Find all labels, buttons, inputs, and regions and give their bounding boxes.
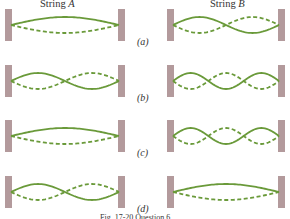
string-b-wave-dashed [173, 192, 279, 200]
string-b-right-wall [278, 176, 285, 208]
standing-wave-diagram [0, 0, 290, 219]
string-a-wave-dashed [11, 136, 119, 144]
string-b-left-wall [167, 65, 174, 97]
string-b-wave-dashed [173, 73, 279, 89]
string-a-right-wall [118, 9, 125, 41]
string-b-right-wall [278, 65, 285, 97]
string-a-wave-solid [11, 128, 119, 136]
string-b-left-wall [167, 176, 174, 208]
string-b-left-wall [167, 120, 174, 152]
string-b-wave-solid [173, 128, 279, 144]
string-b-right-wall [278, 120, 285, 152]
string-a-right-wall [118, 176, 125, 208]
string-b-left-wall [167, 9, 174, 41]
string-a-wave-solid [11, 17, 119, 25]
string-a-wave-solid [11, 73, 119, 89]
string-a-wave-solid [11, 184, 119, 200]
string-a-left-wall [5, 9, 12, 41]
string-a-left-wall [5, 120, 12, 152]
string-a-right-wall [118, 120, 125, 152]
figure-caption: Fig. 17-20 Question 6. [100, 213, 172, 219]
string-b-wave-solid [173, 73, 279, 89]
string-a-left-wall [5, 65, 12, 97]
string-a-left-wall [5, 176, 12, 208]
string-a-right-wall [118, 65, 125, 97]
string-b-wave-dashed [173, 128, 279, 144]
string-a-wave-dashed [11, 25, 119, 33]
string-b-wave-solid [173, 184, 279, 192]
string-b-right-wall [278, 9, 285, 41]
